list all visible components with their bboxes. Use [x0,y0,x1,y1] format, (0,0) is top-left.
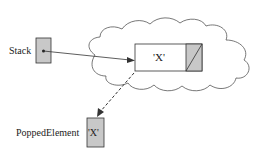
popped-label: PoppedElement [16,127,79,138]
node-value: 'X' [153,51,165,63]
stack-label: Stack [9,45,31,56]
popped-value: 'X' [88,127,99,138]
